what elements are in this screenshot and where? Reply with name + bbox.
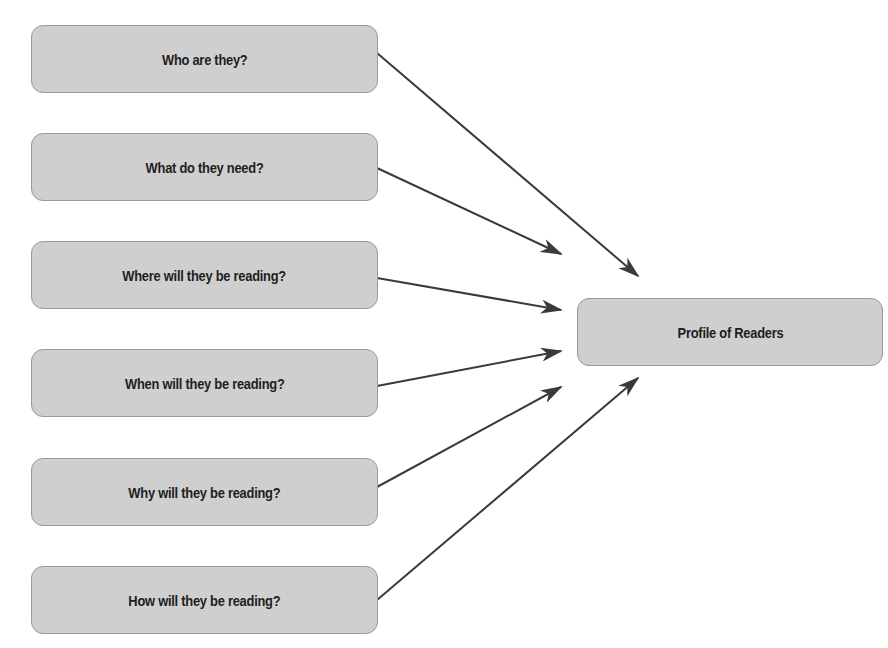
arrow-how-to-profile <box>377 378 638 600</box>
arrow-when-to-profile <box>377 351 561 386</box>
node-label: When will they be reading? <box>125 375 285 392</box>
arrow-why-to-profile <box>377 387 561 487</box>
node-label: Why will they be reading? <box>129 484 281 501</box>
arrow-what-to-profile <box>377 168 561 254</box>
node-how-reading: How will they be reading? <box>31 566 378 634</box>
node-label: Profile of Readers <box>677 324 783 341</box>
node-when-reading: When will they be reading? <box>31 349 378 417</box>
node-what-do-they-need: What do they need? <box>31 133 378 201</box>
arrow-where-to-profile <box>377 278 561 310</box>
node-label: How will they be reading? <box>129 592 281 609</box>
node-why-reading: Why will they be reading? <box>31 458 378 526</box>
node-profile-of-readers: Profile of Readers <box>577 298 883 366</box>
node-label: Who are they? <box>162 51 248 68</box>
node-who-are-they: Who are they? <box>31 25 378 93</box>
node-label: Where will they be reading? <box>123 267 287 284</box>
node-where-reading: Where will they be reading? <box>31 241 378 309</box>
node-label: What do they need? <box>146 159 264 176</box>
arrow-who-to-profile <box>377 53 638 276</box>
